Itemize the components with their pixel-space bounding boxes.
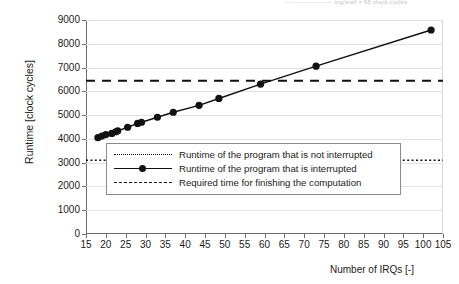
data-point-marker: [257, 81, 264, 88]
legend-label: Runtime of the program that is interrupt…: [179, 163, 357, 175]
y-tick-label: 9000: [36, 15, 80, 25]
x-tick-mark: [106, 234, 107, 238]
y-tick-label: 3000: [36, 158, 80, 168]
x-tick-mark: [126, 234, 127, 238]
x-tick-mark: [165, 234, 166, 238]
x-axis-title: Number of IRQs [-]: [330, 264, 414, 275]
data-point-marker: [215, 95, 222, 102]
chart-figure: — — — — — — ing/stall = 66 clock cycles …: [0, 0, 459, 284]
x-tick-mark: [146, 234, 147, 238]
x-tick-mark: [403, 234, 404, 238]
y-tick-label: 8000: [36, 39, 80, 49]
x-tick-mark: [364, 234, 365, 238]
dashed-line-icon: [112, 177, 174, 189]
data-series-layer: [86, 20, 443, 234]
x-tick-mark: [304, 234, 305, 238]
y-tick-label: 1000: [36, 205, 80, 215]
y-tick-label: 7000: [36, 63, 80, 73]
x-tick-mark: [86, 234, 87, 238]
series-line: [98, 30, 431, 138]
legend-item-interrupted: Runtime of the program that is interrupt…: [112, 162, 395, 176]
y-tick-label: 5000: [36, 110, 80, 120]
data-point-marker: [312, 63, 319, 70]
x-tick-mark: [205, 234, 206, 238]
x-tick-mark: [265, 234, 266, 238]
solid-line-marker-icon: [112, 163, 174, 175]
plot-area: 0100020003000400050006000700080009000 15…: [86, 20, 443, 234]
y-tick-label: 0: [36, 229, 80, 239]
x-tick-mark: [423, 234, 424, 238]
data-point-marker: [124, 124, 131, 131]
legend-item-not-interrupted: Runtime of the program that is not inter…: [112, 148, 395, 162]
x-tick-mark: [284, 234, 285, 238]
data-point-marker: [138, 119, 145, 126]
y-tick-label: 6000: [36, 86, 80, 96]
legend-label: Required time for finishing the computat…: [179, 177, 361, 189]
x-tick-mark: [324, 234, 325, 238]
x-tick-label: 105: [428, 240, 458, 250]
data-point-marker: [114, 127, 121, 134]
legend-label: Runtime of the program that is not inter…: [179, 149, 373, 161]
cut-off-header-text: — — — — — — ing/stall = 66 clock cycles: [286, 0, 456, 7]
data-point-marker: [154, 114, 161, 121]
legend: Runtime of the program that is not inter…: [106, 143, 401, 195]
y-tick-label: 4000: [36, 134, 80, 144]
x-tick-mark: [185, 234, 186, 238]
data-point-marker: [195, 102, 202, 109]
data-point-marker: [102, 131, 109, 138]
dotted-line-icon: [112, 149, 174, 161]
data-point-marker: [170, 109, 177, 116]
data-point-marker: [428, 26, 435, 33]
legend-item-required-time: Required time for finishing the computat…: [112, 176, 395, 190]
x-tick-mark: [225, 234, 226, 238]
x-tick-mark: [245, 234, 246, 238]
y-axis-title: Runtime [clock cycles]: [23, 27, 35, 197]
x-tick-mark: [443, 234, 444, 238]
x-tick-mark: [384, 234, 385, 238]
y-tick-label: 2000: [36, 181, 80, 191]
x-tick-mark: [344, 234, 345, 238]
